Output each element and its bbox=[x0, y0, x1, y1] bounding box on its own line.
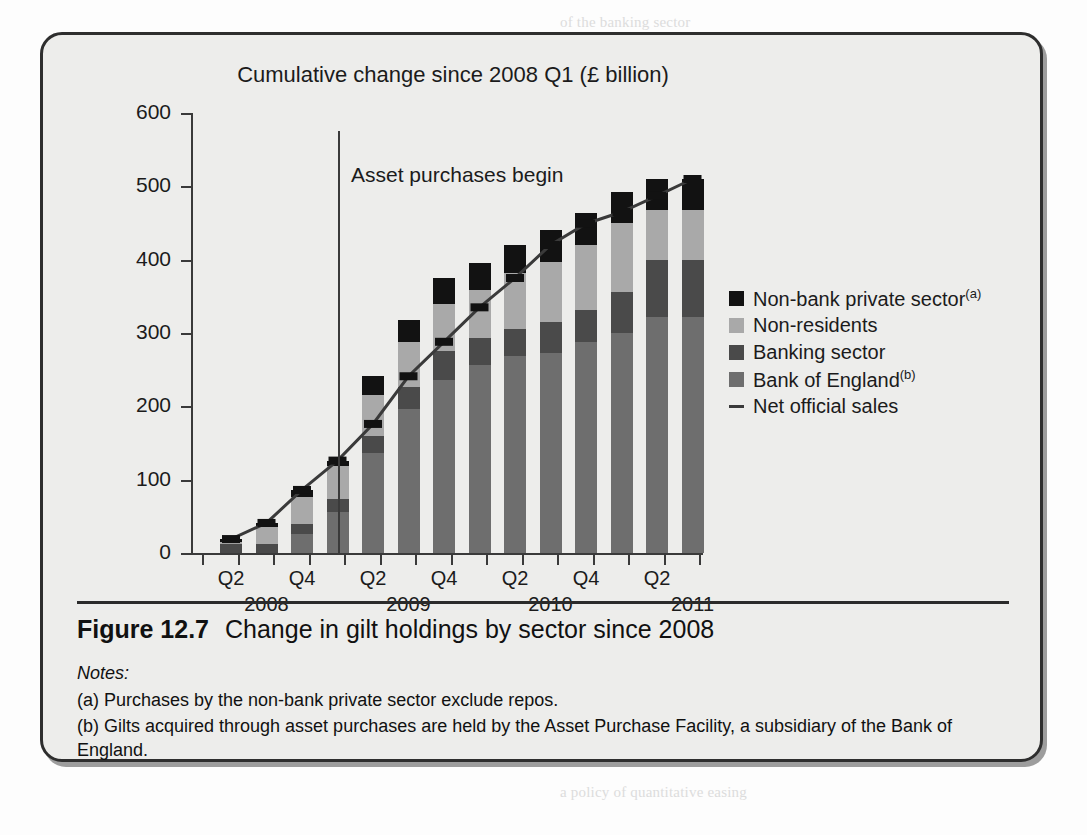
legend-item[interactable]: Net official sales bbox=[729, 393, 981, 420]
x-tick bbox=[273, 555, 275, 565]
legend-swatch-icon bbox=[729, 345, 744, 360]
figure-box: Cumulative change since 2008 Q1 (£ billi… bbox=[40, 32, 1043, 762]
x-tick-label: Q4 bbox=[573, 567, 600, 590]
x-tick bbox=[202, 555, 204, 565]
x-tick bbox=[415, 555, 417, 565]
y-tick-label: 300 bbox=[101, 320, 171, 344]
asset-purchases-marker-line bbox=[338, 131, 340, 555]
page: of the banking sector the non-bank priva… bbox=[0, 0, 1087, 835]
background-text: a policy of quantitative easing bbox=[560, 784, 747, 801]
net-sales-marker bbox=[613, 208, 631, 216]
x-tick bbox=[628, 555, 630, 565]
x-year-label: 2008 bbox=[244, 593, 289, 616]
legend-footnote-marker: (a) bbox=[965, 286, 981, 301]
x-tick-label: Q2 bbox=[360, 567, 387, 590]
net-sales-marker bbox=[577, 220, 595, 228]
x-year-label: 2009 bbox=[386, 593, 431, 616]
y-tick-label: 600 bbox=[101, 100, 171, 124]
x-tick bbox=[486, 555, 488, 565]
figure-caption: Figure 12.7Change in gilt holdings by se… bbox=[77, 615, 714, 644]
x-tick bbox=[344, 555, 346, 565]
legend-item[interactable]: Banking sector bbox=[729, 339, 981, 366]
y-tick bbox=[181, 113, 191, 115]
x-tick bbox=[309, 555, 311, 565]
notes-heading: Notes: bbox=[77, 663, 129, 684]
y-tick bbox=[181, 333, 191, 335]
y-tick bbox=[181, 553, 191, 555]
x-tick bbox=[380, 555, 382, 565]
asset-purchases-annotation: Asset purchases begin bbox=[351, 163, 563, 187]
x-tick-label: Q2 bbox=[218, 567, 245, 590]
net-sales-marker bbox=[435, 338, 453, 346]
chart: Cumulative change since 2008 Q1 (£ billi… bbox=[43, 35, 1046, 595]
note-b: (b) Gilts acquired through asset purchas… bbox=[77, 715, 1007, 763]
legend-item[interactable]: Non-residents bbox=[729, 312, 981, 339]
net-sales-marker bbox=[684, 175, 702, 183]
legend-item[interactable]: Bank of England(b) bbox=[729, 366, 981, 393]
figure-caption-text: Change in gilt holdings by sector since … bbox=[225, 615, 714, 643]
x-tick bbox=[699, 555, 701, 565]
net-sales-marker bbox=[648, 192, 666, 200]
x-tick bbox=[238, 555, 240, 565]
figure-number: Figure 12.7 bbox=[77, 615, 209, 643]
x-tick bbox=[451, 555, 453, 565]
x-tick-label: Q2 bbox=[502, 567, 529, 590]
x-year-label: 2010 bbox=[528, 593, 573, 616]
net-sales-marker bbox=[258, 519, 276, 527]
caption-divider bbox=[77, 601, 1009, 604]
y-tick-label: 0 bbox=[101, 540, 171, 564]
net-sales-marker bbox=[506, 274, 524, 282]
x-year-label: 2011 bbox=[671, 593, 714, 616]
legend-swatch-icon bbox=[729, 291, 744, 306]
legend-swatch-icon bbox=[729, 372, 744, 387]
y-tick-label: 100 bbox=[101, 467, 171, 491]
x-tick-label: Q2 bbox=[644, 567, 671, 590]
y-tick-label: 400 bbox=[101, 247, 171, 271]
legend-label: Net official sales bbox=[753, 395, 898, 418]
x-tick-label: Q4 bbox=[431, 567, 458, 590]
y-tick bbox=[181, 260, 191, 262]
y-tick bbox=[181, 480, 191, 482]
legend: Non-bank private sector(a)Non-residentsB… bbox=[729, 285, 981, 420]
y-tick-label: 500 bbox=[101, 173, 171, 197]
net-sales-marker bbox=[542, 241, 560, 249]
legend-label: Bank of England(b) bbox=[753, 367, 916, 392]
legend-label: Non-residents bbox=[753, 314, 878, 337]
note-a: (a) Purchases by the non-bank private se… bbox=[77, 689, 1007, 713]
x-tick bbox=[522, 555, 524, 565]
background-text: of the banking sector bbox=[560, 14, 690, 31]
x-tick bbox=[557, 555, 559, 565]
net-sales-marker bbox=[400, 372, 418, 380]
x-tick-label: Q4 bbox=[289, 567, 316, 590]
y-tick bbox=[181, 406, 191, 408]
x-tick bbox=[664, 555, 666, 565]
y-tick bbox=[181, 186, 191, 188]
net-sales-marker bbox=[293, 486, 311, 494]
legend-label: Banking sector bbox=[753, 341, 885, 364]
legend-item[interactable]: Non-bank private sector(a) bbox=[729, 285, 981, 312]
legend-line-icon bbox=[729, 405, 744, 408]
x-tick bbox=[593, 555, 595, 565]
net-sales-marker bbox=[471, 303, 489, 311]
legend-swatch-icon bbox=[729, 318, 744, 333]
legend-footnote-marker: (b) bbox=[900, 367, 916, 382]
y-tick-label: 200 bbox=[101, 393, 171, 417]
net-sales-marker bbox=[222, 535, 240, 543]
legend-label: Non-bank private sector(a) bbox=[753, 286, 981, 311]
net-sales-marker bbox=[364, 420, 382, 428]
